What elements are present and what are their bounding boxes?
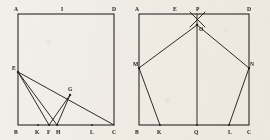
segment-GF xyxy=(49,95,70,125)
segment-MK xyxy=(139,68,160,125)
vertex-dot-Q xyxy=(196,124,198,126)
figures-canvas: A I D E G B K F H L C xyxy=(0,0,270,140)
vertex-dot-K xyxy=(37,124,39,126)
segment-EC xyxy=(18,72,114,125)
label-right-D: D xyxy=(247,6,251,12)
label-left-I: I xyxy=(61,6,63,12)
vertex-dot-K xyxy=(159,124,161,126)
vertex-dot-E xyxy=(17,71,19,73)
label-right-Q: Q xyxy=(194,129,199,135)
vertex-dot-N xyxy=(248,67,250,69)
vertex-dot-O xyxy=(196,24,199,27)
label-right-P: P xyxy=(196,6,200,12)
label-left-H: H xyxy=(56,129,61,135)
diagram-page: A I D E G B K F H L C xyxy=(0,0,270,140)
segment-MO xyxy=(139,25,197,68)
label-right-B: B xyxy=(135,129,139,135)
label-left-K: K xyxy=(35,129,40,135)
label-left-D: D xyxy=(112,6,116,12)
segment-NL xyxy=(229,68,249,125)
vertex-dot-L xyxy=(91,124,93,126)
label-left-G: G xyxy=(68,86,73,92)
label-right-K: K xyxy=(157,129,162,135)
figure-left: A I D E G B K F H L C xyxy=(12,6,116,135)
label-right-L: L xyxy=(228,129,232,135)
label-left-C: C xyxy=(112,129,116,135)
right-square-ABCD xyxy=(139,14,249,125)
label-right-E: E xyxy=(173,6,177,12)
label-right-A: A xyxy=(135,6,139,12)
vertex-dot-G xyxy=(69,94,71,96)
label-left-E: E xyxy=(12,65,16,71)
label-right-O: O xyxy=(199,26,204,32)
figure-right: A E P D O M N B K Q L C xyxy=(133,6,254,135)
segment-EH xyxy=(18,72,57,125)
segment-NO xyxy=(197,25,249,68)
label-left-B: B xyxy=(14,129,18,135)
vertex-dot-H xyxy=(56,124,58,126)
label-right-N: N xyxy=(250,61,254,67)
label-right-M: M xyxy=(133,61,139,67)
label-left-F: F xyxy=(47,129,51,135)
segment-EF xyxy=(18,72,49,125)
vertex-dot-M xyxy=(138,67,140,69)
label-left-A: A xyxy=(14,6,18,12)
label-left-L: L xyxy=(90,129,94,135)
vertex-dot-F xyxy=(48,124,50,126)
label-right-C: C xyxy=(247,129,251,135)
left-square-ABCD xyxy=(18,14,114,125)
vertex-dot-L xyxy=(228,124,230,126)
